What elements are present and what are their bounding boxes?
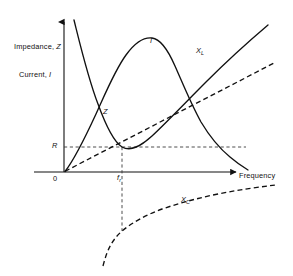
xc-reactance-label: XC [181,196,190,206]
origin-label: 0 [53,175,57,182]
current-curve [65,38,248,172]
impedance-curve-label: Z [103,108,108,115]
current-curve-label: I [150,37,152,44]
resistance-label: R [52,142,58,149]
y-axis-label-impedance: Impedance, Z [14,43,61,50]
resonance-figure: Impedance, Z Current, I Frequency XL XC … [0,0,293,276]
impedance-curve [74,20,268,149]
y-axis-label-current: Current, I [19,71,51,78]
xl-reactance-label: XL [196,47,204,57]
x-axis-label-frequency: Frequency [239,172,275,179]
xl-reactance-curve [65,62,276,171]
resonant-frequency-label: fr [117,174,121,184]
